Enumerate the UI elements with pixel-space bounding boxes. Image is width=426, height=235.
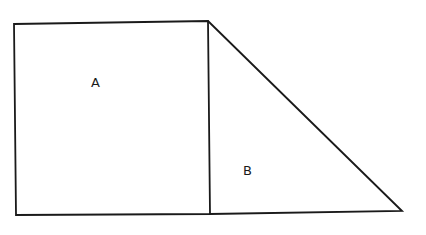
triangle-b-outline [208,21,402,214]
shape-b-triangle: B [208,21,402,214]
rectangle-a-outline [14,21,210,215]
label-a: A [91,75,100,90]
label-b: B [243,163,252,178]
shape-a-rectangle: A [14,21,210,215]
diagram-canvas: A B [0,0,426,235]
